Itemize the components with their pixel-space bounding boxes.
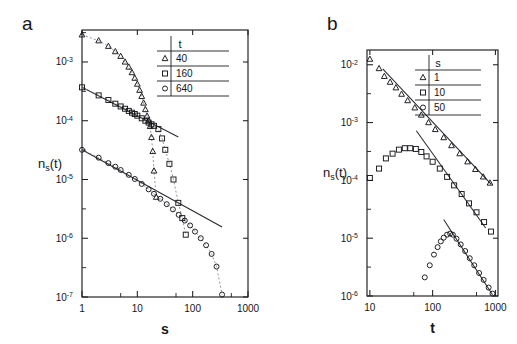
x-axis-label: t [430, 320, 435, 336]
legend-value: 40 [176, 53, 188, 64]
x-tick-label: 1000 [237, 303, 260, 314]
data-point [383, 156, 388, 161]
y-axis-label: ns(t) [38, 156, 62, 173]
data-point [188, 223, 193, 228]
data-point [390, 151, 395, 156]
y-tick-label: 10-4 [56, 115, 73, 127]
legend-marker [162, 55, 168, 60]
y-tick-label: 10-6 [56, 232, 73, 244]
data-point [430, 159, 435, 164]
panel-label-b: b [327, 13, 338, 35]
y-tick-label: 10-3 [56, 56, 73, 68]
data-point [381, 73, 387, 78]
data-point [424, 154, 429, 159]
x-tick-label: 1000 [484, 302, 507, 313]
data-point [112, 48, 118, 53]
panel-a: 110100100010-310-410-510-610-7sns(t)t401… [38, 30, 260, 337]
data-point [377, 166, 382, 171]
data-point [422, 275, 427, 280]
fit-line [82, 150, 222, 227]
data-point [396, 147, 401, 152]
x-tick-label: 100 [184, 303, 201, 314]
y-axis-label: ns(t) [323, 165, 347, 182]
data-point [445, 232, 450, 237]
data-point [198, 236, 203, 241]
legend-value: 160 [176, 68, 193, 79]
y-tick-label: 10-5 [341, 232, 358, 244]
data-point [408, 146, 413, 151]
data-point [402, 146, 407, 151]
data-point [387, 79, 393, 84]
data-point [427, 263, 432, 268]
data-point [488, 229, 493, 234]
data-point [146, 187, 151, 192]
legend-value: 1 [434, 72, 440, 83]
data-point [170, 207, 175, 212]
y-tick-label: 10-5 [56, 173, 73, 185]
legend-marker [163, 71, 168, 76]
data-point [473, 166, 479, 171]
x-tick-label: 10 [364, 302, 376, 313]
legend-marker [421, 105, 426, 110]
legend-value: 50 [434, 102, 446, 113]
y-tick-label: 10-2 [341, 59, 358, 71]
legend-marker [421, 90, 426, 95]
data-point [449, 142, 455, 147]
data-point [413, 146, 418, 151]
fit-line [416, 131, 485, 228]
data-point [176, 212, 181, 217]
data-point [163, 147, 168, 152]
data-point [137, 87, 143, 92]
x-axis-label: s [161, 321, 169, 337]
y-tick-label: 10-7 [56, 291, 73, 303]
data-point [431, 252, 436, 257]
legend-value: 10 [434, 87, 446, 98]
legend-value: 640 [176, 83, 193, 94]
data-point [106, 43, 112, 48]
x-tick-label: 100 [424, 302, 441, 313]
data-point [376, 65, 382, 70]
legend-header: s [435, 57, 441, 69]
y-tick-label: 10-3 [341, 116, 358, 128]
data-point [96, 38, 102, 43]
data-point [204, 243, 209, 248]
data-point [419, 149, 424, 154]
data-point [367, 56, 373, 61]
data-point [490, 291, 495, 296]
figure-canvas: 110100100010-310-410-510-610-7sns(t)t401… [0, 0, 517, 344]
legend-marker [420, 74, 426, 79]
scientific-figure: a b 110100100010-310-410-510-610-7sns(t)… [0, 0, 517, 344]
x-tick-label: 10 [132, 303, 144, 314]
legend-header: t [178, 38, 181, 50]
plot-frame [367, 50, 498, 296]
data-point [435, 245, 440, 250]
y-tick-label: 10-6 [341, 290, 358, 302]
legend-marker [163, 86, 168, 91]
panel-label-a: a [22, 13, 33, 35]
data-point [132, 75, 138, 80]
panel-b: 10100100010-210-310-410-510-6tns(t)s1105… [323, 50, 507, 336]
x-tick-label: 1 [79, 303, 85, 314]
data-point [367, 175, 372, 180]
